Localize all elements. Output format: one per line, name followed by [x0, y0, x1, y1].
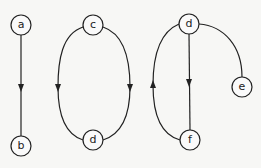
graph-edges: [0, 0, 261, 168]
node-f-label: f: [180, 130, 200, 150]
edge-c-d-left: [58, 27, 83, 140]
node-b-label: b: [11, 136, 31, 156]
node-c-label: c: [83, 15, 103, 35]
edge-d-e: [199, 24, 242, 77]
edge-c-d-right: [103, 27, 130, 140]
arrow-down-icon: [18, 84, 24, 92]
arrow-up-icon: [150, 80, 156, 88]
diagram-canvas: a b c d d e f: [0, 0, 261, 168]
arrow-down-icon: [127, 84, 133, 92]
edge-f-d-left: [153, 24, 180, 140]
arrow-down-icon: [186, 79, 192, 87]
node-d-middle-label: d: [83, 130, 103, 150]
node-d-right-label: d: [179, 14, 199, 34]
node-e-label: e: [232, 77, 252, 97]
arrow-down-icon: [55, 84, 61, 92]
node-a-label: a: [11, 15, 31, 35]
